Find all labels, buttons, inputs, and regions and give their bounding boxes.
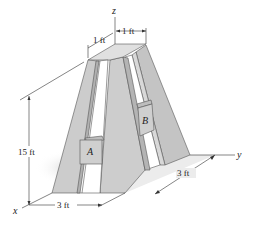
frustum-structure-diagram: z y x A B 1 ft 1 ft 15 ft 3 ft <box>0 0 255 233</box>
arrow-base-y-l <box>155 190 160 194</box>
block-b-label: B <box>142 115 148 126</box>
dim-top-left-label: 1 ft <box>93 35 106 45</box>
y-axis-label: y <box>236 149 242 160</box>
dim-base-x-label: 3 ft <box>57 200 70 210</box>
arrow-height-bottom <box>28 201 31 205</box>
block-a-label: A <box>86 146 94 157</box>
dim-base-x-ext <box>98 193 125 207</box>
dim-base-y-label: 3 ft <box>177 168 190 178</box>
x-axis <box>22 193 52 208</box>
dim-top-right-label: 1 ft <box>122 26 135 36</box>
arrow-top-right-r <box>142 30 146 33</box>
dim-height-ext-top <box>20 62 84 100</box>
z-axis-label: z <box>111 5 116 16</box>
x-axis-label: x <box>12 205 18 216</box>
arrow-top-right-l <box>116 30 120 33</box>
dim-height-label: 15 ft <box>18 147 35 157</box>
arrow-height-top <box>28 96 31 100</box>
